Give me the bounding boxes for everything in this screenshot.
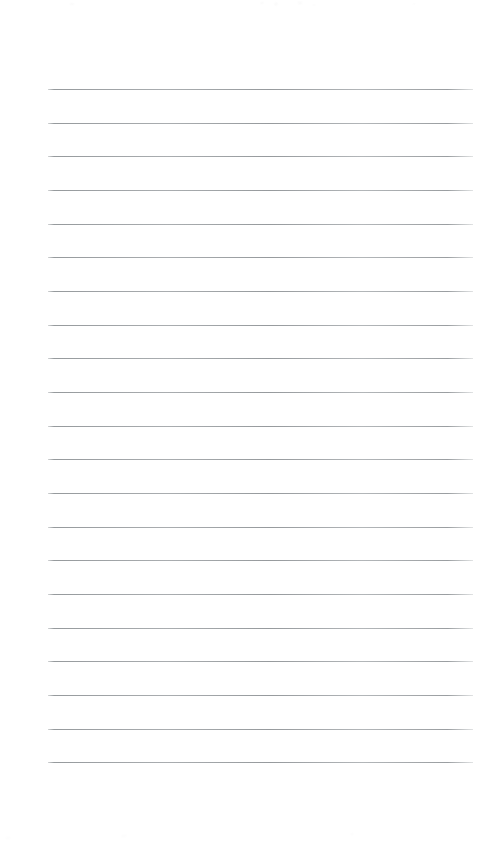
rule-line <box>48 156 473 157</box>
rule-line <box>48 527 473 528</box>
rule-line <box>48 729 473 730</box>
rule-line <box>48 224 473 225</box>
rule-line <box>48 257 473 258</box>
rule-line <box>48 695 473 696</box>
ruled-paper-page <box>0 0 492 846</box>
rule-line <box>48 493 473 494</box>
ruled-lines-group <box>0 0 492 846</box>
rule-line <box>48 426 473 427</box>
rule-line <box>48 560 473 561</box>
rule-line <box>48 89 473 90</box>
rule-line <box>48 628 473 629</box>
rule-line <box>48 661 473 662</box>
rule-line <box>48 325 473 326</box>
rule-line <box>48 392 473 393</box>
rule-line <box>48 762 473 763</box>
rule-line <box>48 459 473 460</box>
rule-line <box>48 291 473 292</box>
rule-line <box>48 358 473 359</box>
rule-line <box>48 190 473 191</box>
rule-line <box>48 123 473 124</box>
rule-line <box>48 594 473 595</box>
